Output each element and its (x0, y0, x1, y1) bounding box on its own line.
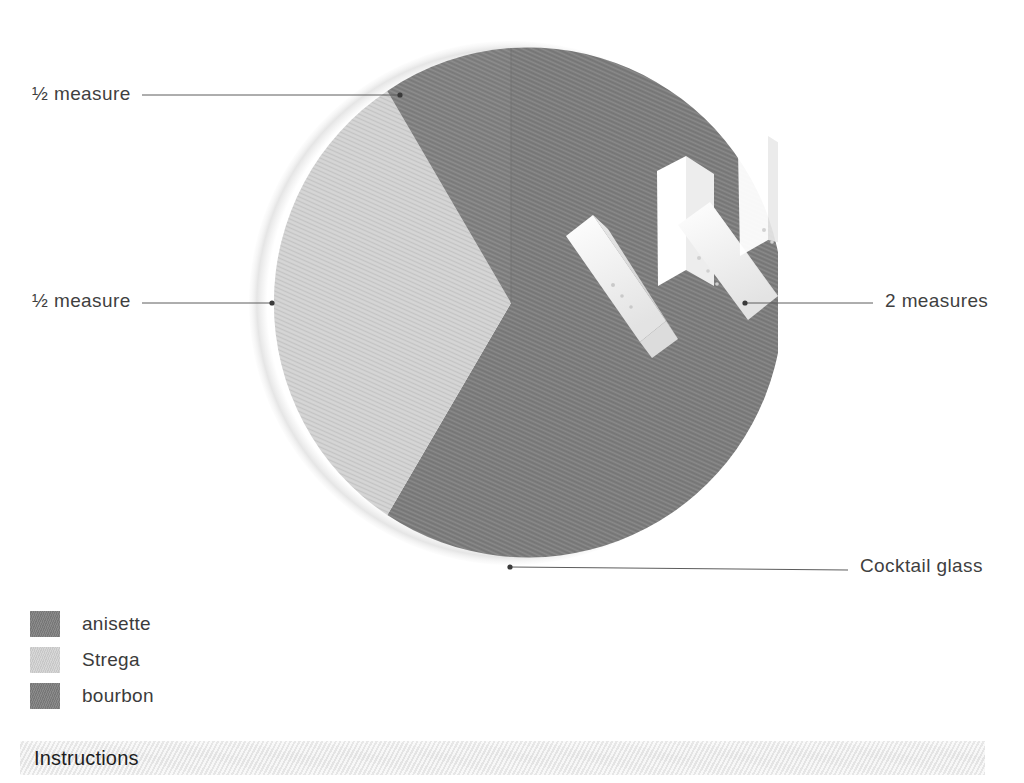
callout-label-cocktail-glass: Cocktail glass (860, 555, 983, 577)
legend-label-bourbon: bourbon (82, 685, 154, 707)
pie-chart (248, 40, 778, 570)
pie-chart-svg (248, 40, 778, 570)
legend-swatch-anisette (30, 611, 60, 637)
legend-label-strega: Strega (82, 649, 140, 671)
legend-item-anisette[interactable]: anisette (30, 606, 270, 642)
chart-legend: anisette Strega bourbon (30, 606, 270, 714)
legend-label-anisette: anisette (82, 613, 151, 635)
callout-label-anisette: ½ measure (32, 83, 131, 105)
legend-swatch-strega (30, 647, 60, 673)
legend-item-bourbon[interactable]: bourbon (30, 678, 270, 714)
legend-swatch-bourbon (30, 683, 60, 709)
instructions-heading: Instructions (34, 747, 139, 770)
instructions-band (20, 741, 985, 775)
callout-label-bourbon: 2 measures (885, 290, 988, 312)
legend-item-strega[interactable]: Strega (30, 642, 270, 678)
chart-stage: ½ measure ½ measure 2 measures Cocktail … (0, 0, 1024, 783)
callout-label-strega: ½ measure (32, 290, 131, 312)
